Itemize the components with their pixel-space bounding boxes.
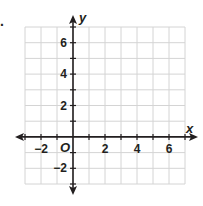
x-tick-label: 2 [102,142,109,156]
y-axis-label: y [78,10,87,25]
y-tick-label: 2 [60,99,67,113]
y-tick-label: 4 [60,67,67,81]
y-tick-label: 6 [60,36,67,50]
y-tick-label: −2 [53,161,67,175]
coordinate-grid: −2246642−2 x y O [0,0,203,206]
grid-lines [25,27,185,184]
x-tick-label: 4 [134,142,141,156]
x-axis-label: x [185,121,194,136]
x-tick-label: −2 [34,142,48,156]
x-tick-label: 6 [166,142,173,156]
origin-label: O [60,140,70,155]
